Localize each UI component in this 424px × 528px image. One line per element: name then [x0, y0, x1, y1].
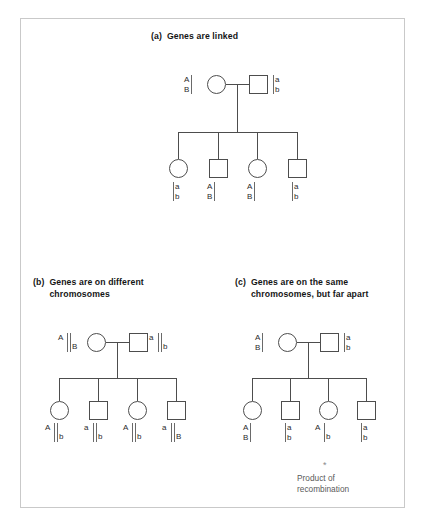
allele-top: a	[162, 423, 169, 442]
descent-line	[237, 84, 238, 132]
chromosome-bars	[67, 333, 71, 352]
child-drop-line	[290, 378, 291, 401]
panel-a-pedigree: A B a b	[21, 19, 406, 219]
chromosome-bars	[273, 75, 274, 94]
descent-line	[308, 342, 309, 378]
chromosome-bars	[158, 333, 162, 352]
panel-b-pedigree: A B a b A b	[21, 315, 221, 455]
allele-bottom: B	[207, 192, 212, 202]
panel-c-heading-text: Genes are on the same chromosomes, but f…	[251, 277, 369, 300]
panel-c-father-symbol[interactable]	[320, 333, 339, 352]
chromosome-bars	[214, 182, 215, 201]
allele-bottom: B	[72, 333, 79, 352]
panel-c-child-3-symbol[interactable]	[319, 401, 338, 420]
allele-bottom: b	[346, 343, 350, 353]
panel-a-father-genotype: a b	[271, 75, 279, 94]
panel-b-child-3-genotype: A b	[123, 423, 144, 442]
child-drop-line	[366, 378, 367, 401]
child-drop-line	[257, 132, 258, 159]
allele-bottom: b	[363, 433, 367, 443]
chromosome-bars	[254, 182, 255, 201]
chromosome-bars	[54, 423, 58, 442]
panel-c-child-1-symbol[interactable]	[243, 401, 262, 420]
allele-top: A	[255, 333, 260, 343]
panel-a-child-4-genotype: a b	[290, 182, 298, 201]
panel-c-pedigree: A B a b	[219, 315, 409, 515]
panel-a-child-2-genotype: A B	[207, 182, 216, 201]
allele-bottom: b	[175, 192, 179, 202]
panel-b-father-symbol[interactable]	[129, 333, 148, 352]
child-drop-line	[176, 378, 177, 401]
panel-b-mother-genotype: A B	[58, 333, 79, 352]
child-drop-line	[59, 378, 60, 401]
allele-bottom: b	[137, 423, 144, 442]
chromosome-bars	[93, 423, 97, 442]
allele-bottom: b	[59, 423, 66, 442]
child-drop-line	[218, 132, 219, 159]
panel-b-heading-text: Genes are on different chromosomes	[49, 277, 143, 300]
panel-b-child-1-genotype: A b	[45, 423, 66, 442]
allele-top: A	[184, 75, 189, 85]
recombination-marker: *	[323, 461, 327, 470]
panel-c-father-genotype: a b	[342, 333, 350, 352]
chromosome-bars	[285, 423, 286, 442]
panel-b-child-2-genotype: a b	[84, 423, 105, 442]
allele-bottom: b	[294, 192, 298, 202]
chromosome-bars	[324, 423, 325, 442]
allele-top: a	[287, 423, 291, 433]
child-drop-line	[297, 132, 298, 159]
panel-a-child-4-symbol[interactable]	[288, 159, 307, 178]
panel-b-child-4-symbol[interactable]	[167, 401, 186, 420]
recombination-note: Product of recombination	[297, 473, 349, 495]
child-drop-line	[98, 378, 99, 401]
allele-bottom: b	[275, 85, 279, 95]
descent-line	[117, 342, 118, 378]
panel-c-child-2-genotype: a b	[283, 423, 291, 442]
panel-a-child-1-genotype: a b	[171, 182, 179, 201]
figure-frame: (a) Genes are linked A B a b	[20, 18, 405, 508]
child-drop-line	[328, 378, 329, 401]
allele-top: a	[294, 182, 298, 192]
panel-c-heading: (c) Genes are on the same chromosomes, b…	[235, 277, 368, 300]
chromosome-bars	[173, 182, 174, 201]
panel-b-heading: (b) Genes are on different chromosomes	[33, 277, 144, 300]
panel-b-child-2-symbol[interactable]	[89, 401, 108, 420]
child-drop-line	[137, 378, 138, 401]
allele-top: a	[363, 423, 367, 433]
allele-top: A	[315, 423, 322, 442]
panel-c-child-4-genotype: a b	[359, 423, 367, 442]
allele-top: a	[275, 75, 279, 85]
chromosome-bars	[292, 182, 293, 201]
chromosome-bars	[250, 423, 251, 442]
allele-bottom: b	[98, 423, 105, 442]
chromosome-bars	[361, 423, 362, 442]
allele-top: A	[207, 182, 212, 192]
allele-top: a	[346, 333, 350, 343]
chromosome-bars	[171, 423, 175, 442]
panel-c-child-2-symbol[interactable]	[281, 401, 300, 420]
panel-c-child-1-genotype: A B	[243, 423, 252, 442]
panel-c-mother-symbol[interactable]	[278, 333, 297, 352]
allele-top: A	[247, 182, 252, 192]
child-drop-line	[252, 378, 253, 401]
allele-top: A	[123, 423, 130, 442]
allele-bottom: B	[176, 423, 183, 442]
panel-a-father-symbol[interactable]	[249, 75, 268, 94]
panel-b-child-3-symbol[interactable]	[128, 401, 147, 420]
panel-b-mother-symbol[interactable]	[87, 333, 106, 352]
panel-c-mother-genotype: A B	[255, 333, 264, 352]
panel-a-mother-symbol[interactable]	[207, 75, 226, 94]
sibship-line	[178, 132, 297, 133]
allele-bottom: B	[243, 433, 248, 443]
panel-a-child-2-symbol[interactable]	[209, 159, 228, 178]
chromosome-bars	[132, 423, 136, 442]
panel-b-child-4-genotype: a B	[162, 423, 183, 442]
panel-a-child-3-symbol[interactable]	[248, 159, 267, 178]
allele-top: A	[58, 333, 65, 352]
panel-c-child-3-genotype: A b	[315, 423, 333, 442]
allele-top: a	[149, 333, 156, 352]
panel-a-child-1-symbol[interactable]	[169, 159, 188, 178]
panel-b-child-1-symbol[interactable]	[50, 401, 69, 420]
allele-bottom: B	[184, 85, 189, 95]
panel-c-child-4-symbol[interactable]	[357, 401, 376, 420]
